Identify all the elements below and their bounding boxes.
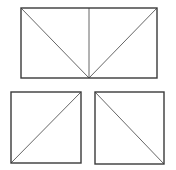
bottom-left-square bbox=[11, 92, 81, 163]
diagram-canvas bbox=[0, 0, 176, 170]
right-diagonal bbox=[89, 8, 157, 78]
bottom-right-square bbox=[95, 92, 164, 164]
left-diagonal bbox=[21, 8, 89, 78]
ascending-diagonal bbox=[11, 92, 81, 163]
descending-diagonal bbox=[95, 92, 164, 164]
top-rectangle bbox=[21, 8, 157, 78]
